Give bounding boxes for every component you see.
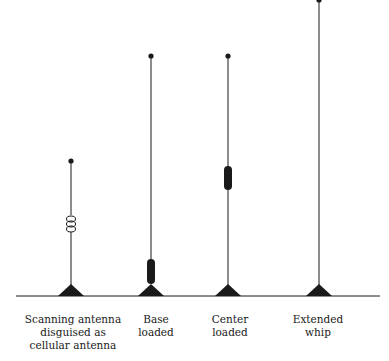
label-scanning-antenna: Scanning antenna disguised as cellular a… (25, 313, 121, 352)
loading-coil-icon (224, 166, 232, 190)
coil-icon (67, 216, 76, 232)
label-extended-whip: Extended whip (293, 313, 343, 339)
extended-whip-antenna (306, 0, 332, 296)
mount-base-icon (138, 284, 164, 296)
mount-base-icon (58, 284, 84, 296)
label-center-loaded: Center loaded (212, 313, 248, 339)
tip-ball-icon (225, 53, 230, 58)
loading-coil-icon (147, 259, 155, 284)
antenna-diagram (0, 0, 389, 361)
tip-ball-icon (68, 158, 73, 163)
tip-ball-icon (316, 0, 321, 3)
scanning-antenna (58, 158, 84, 296)
label-base-loaded: Base loaded (138, 313, 174, 339)
mount-base-icon (215, 284, 241, 296)
base-loaded-antenna (138, 53, 164, 296)
tip-ball-icon (148, 53, 153, 58)
center-loaded-antenna (215, 53, 241, 296)
mount-base-icon (306, 284, 332, 296)
